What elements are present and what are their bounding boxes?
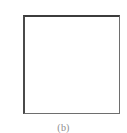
figure-box-interior (25, 17, 119, 113)
figure-bounding-box (23, 15, 120, 114)
figure-caption: (b) (0, 122, 127, 133)
figure-panel: (b) (0, 0, 127, 133)
